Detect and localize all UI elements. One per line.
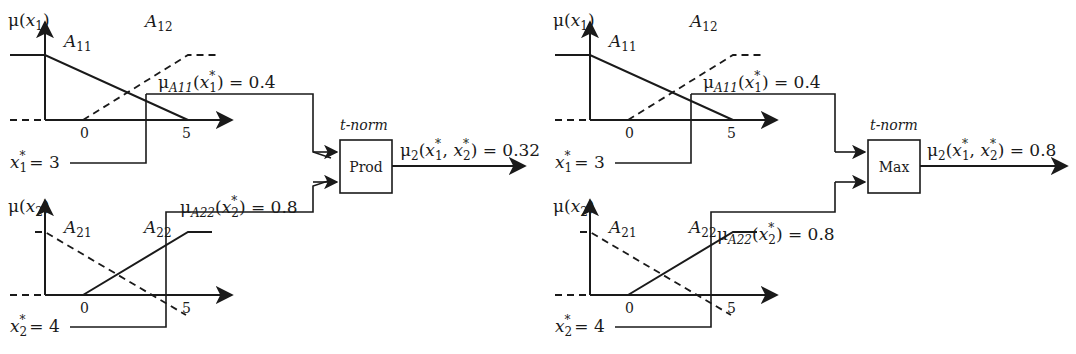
tick-0: 0 [625, 300, 634, 316]
tick-5: 5 [727, 125, 736, 141]
tnorm-operator-max: t-norm Max [868, 117, 920, 193]
set-a22-label: A22 [687, 217, 717, 240]
mu-a11-value: μA11(x*1) = 0.4 [158, 69, 276, 95]
set-a22-label: A22 [142, 217, 172, 240]
fuzzy-tnorm-diagram: μ(x1) A11 A12 0 5 x*1= 3 μA11(x*1) = 0.4… [0, 0, 1076, 354]
tnorm-caption: t-norm [870, 117, 918, 133]
set-a11-label: A11 [62, 31, 92, 54]
input-x2-label: x*2= 4 [555, 313, 605, 339]
y-label-mu-x1: μ(x1) [553, 10, 595, 33]
input-x1-label: x*1= 3 [555, 149, 605, 175]
y-label-mu-x1: μ(x1) [8, 10, 50, 33]
operator-label: Prod [349, 159, 383, 175]
tnorm-caption: t-norm [340, 117, 388, 133]
set-a22-line [83, 232, 212, 295]
set-a12-label: A12 [688, 11, 718, 34]
bottom-membership-plot: μ(x2) A21 A22 0 5 x*2= 4 μA22(x*2) = 0.8 [8, 180, 331, 339]
operator-label: Max [879, 159, 910, 175]
tick-0: 0 [80, 125, 89, 141]
diagram-prod: μ(x1) A11 A12 0 5 x*1= 3 μA11(x*1) = 0.4… [8, 10, 540, 339]
tnorm-operator-prod: t-norm Prod [340, 117, 392, 193]
y-label-mu-x2: μ(x2) [553, 196, 595, 219]
set-a11-label: A11 [607, 31, 637, 54]
set-a21-line [580, 232, 731, 315]
mu-a11-line [146, 94, 331, 158]
tick-0: 0 [80, 300, 89, 316]
bottom-membership-plot: μ(x2) A21 A22 0 5 x*2= 4 μA22(x*2) = 0.8 [553, 182, 835, 339]
tick-0: 0 [625, 125, 634, 141]
mu-a11-line [691, 94, 835, 152]
output-value: μ2(x*1, x*2) = 0.32 [400, 137, 540, 163]
mu-a11-value: μA11(x*1) = 0.4 [703, 69, 821, 95]
top-membership-plot: μ(x1) A11 A12 0 5 x*1= 3 μA11(x*1) = 0.4 [8, 10, 331, 175]
diagram-max: μ(x1) A11 A12 0 5 x*1= 3 μA11(x*1) = 0.4… [553, 10, 1067, 339]
tick-5: 5 [182, 300, 191, 316]
tick-5: 5 [727, 300, 736, 316]
set-a21-line [35, 232, 186, 315]
mu-a22-value: μA22(x*2) = 0.8 [717, 221, 835, 247]
input-x2-label: x*2= 4 [10, 313, 60, 339]
set-a21-label: A21 [62, 217, 92, 240]
set-a21-label: A21 [607, 217, 637, 240]
tick-5: 5 [182, 125, 191, 141]
output-value: μ2(x*1, x*2) = 0.8 [927, 137, 1056, 163]
input-x1-label: x*1= 3 [10, 149, 60, 175]
set-a12-label: A12 [143, 11, 173, 34]
y-label-mu-x2: μ(x2) [8, 196, 50, 219]
mu-a22-value: μA22(x*2) = 0.8 [180, 194, 298, 220]
top-membership-plot: μ(x1) A11 A12 0 5 x*1= 3 μA11(x*1) = 0.4 [553, 10, 835, 175]
